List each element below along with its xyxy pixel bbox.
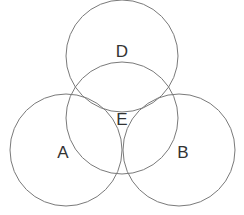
label-e: E [116,110,127,129]
label-a: A [57,143,69,162]
label-b: B [177,143,188,162]
label-d: D [116,42,128,61]
venn-diagram: D E A B [0,0,244,215]
